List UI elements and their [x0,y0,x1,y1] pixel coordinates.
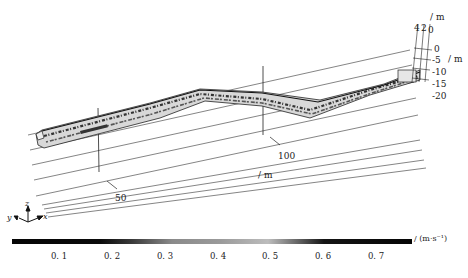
z-axis-unit: / m [448,54,463,64]
x-tick-100-label: 100 [278,151,295,161]
x-tick-100 [270,137,280,145]
colorbar-tick: 0. 5 [262,251,278,261]
y-axis-unit: / m [430,12,445,22]
axis-triad [14,206,43,222]
x-axis-unit: / m [258,170,273,180]
colorbar-tick: 0. 4 [210,251,226,261]
triad-z-label: z [24,199,30,208]
y-tick-4: 4 [414,23,420,33]
colorbar-unit: / (m·s⁻¹) [414,234,447,243]
tunnel-3d-view: / m 4 2 0 0 -5 -10 -15 -20 / m 50 100 / … [0,0,468,278]
triad-x-label: x [43,212,48,221]
y-tick-2: 2 [421,23,427,33]
velocity-colorbar [12,239,412,244]
x-tick-50-label: 50 [115,193,127,203]
z-tick-neg5: -5 [432,55,441,65]
colorbar-tick: 0. 1 [51,251,67,261]
z-tick-neg10: -10 [432,67,447,77]
colorbar-tick: 0. 6 [315,251,331,261]
triad-y-label: y [6,213,12,222]
z-tick-neg20: -20 [432,91,447,101]
colorbar-tick: 0. 2 [104,251,120,261]
x-tick-50 [107,181,117,189]
colorbar-tick: 0. 7 [368,251,384,261]
colorbar-tick: 0. 3 [157,251,173,261]
z-tick-neg15: -15 [432,79,447,89]
tunnel-streamlines [36,70,420,148]
y-tick-0: 0 [428,25,434,35]
z-tick-0: 0 [434,44,440,54]
